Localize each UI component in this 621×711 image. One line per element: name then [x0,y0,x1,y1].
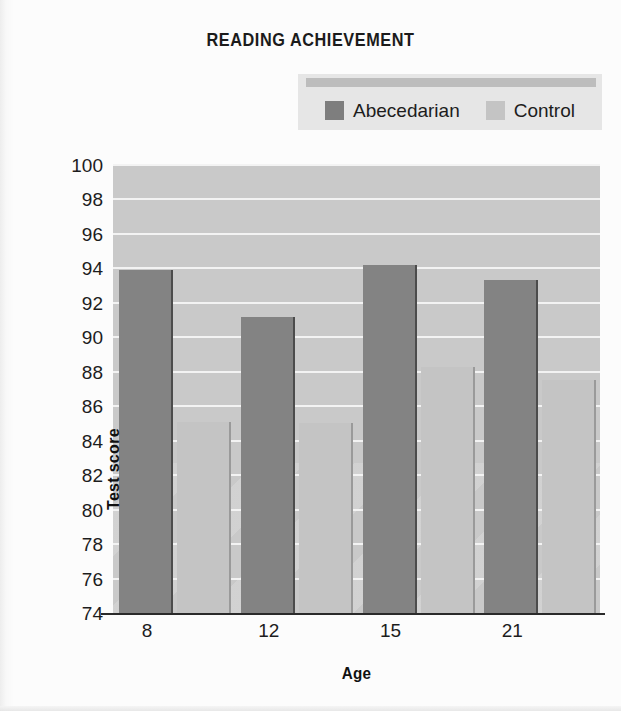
legend-item-abecedarian: Abecedarian [325,101,460,120]
y-tick-label: 92 [51,293,103,312]
y-tick-label: 94 [51,259,103,278]
chart-legend: Abecedarian Control [298,74,602,130]
y-tick-label: 86 [51,397,103,416]
x-tick-label: 12 [258,621,279,640]
x-axis-line [101,613,605,615]
bar-abecedarian-age-8 [119,270,173,613]
legend-label-abecedarian: Abecedarian [353,101,460,120]
y-tick-label: 88 [51,362,103,381]
bar-abecedarian-age-12 [241,317,295,613]
x-tick-label: 15 [380,621,401,640]
chart-plot-area: 10098969492908886848280787674 Test score [113,165,600,613]
y-axis-title: Test score [105,428,123,510]
x-axis-ticks: 8121521 [113,621,600,649]
bar-abecedarian-age-15 [363,265,417,613]
legend-items: Abecedarian Control [298,92,602,128]
x-tick-label: 21 [502,621,523,640]
y-tick-label: 74 [51,604,103,623]
y-axis-ticks: 10098969492908886848280787674 [51,165,103,613]
legend-item-control: Control [486,101,575,120]
legend-label-control: Control [514,101,575,120]
light-gray-swatch-icon [486,101,505,120]
bar-control-age-15 [421,367,475,613]
y-tick-label: 100 [51,156,103,175]
bar-abecedarian-age-21 [484,280,538,613]
y-tick-label: 98 [51,190,103,209]
legend-top-bar [306,78,596,87]
y-tick-label: 78 [51,535,103,554]
y-tick-label: 76 [51,569,103,588]
bar-control-age-12 [299,423,353,613]
y-tick-label: 80 [51,500,103,519]
x-axis-title: Age [125,665,588,683]
y-tick-label: 96 [51,224,103,243]
dark-gray-swatch-icon [325,101,344,120]
bar-control-age-21 [542,380,596,613]
chart-title: READING ACHIEVEMENT [22,30,600,51]
y-tick-label: 82 [51,466,103,485]
bar-series-container [113,165,600,613]
bar-control-age-8 [177,422,231,613]
x-tick-label: 8 [142,621,153,640]
y-tick-label: 84 [51,431,103,450]
y-tick-label: 90 [51,328,103,347]
